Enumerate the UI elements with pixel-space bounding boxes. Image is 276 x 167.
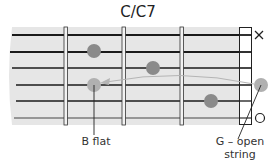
open-o-icon (256, 114, 265, 123)
mute-x-icon (255, 31, 263, 39)
g-open-label-line1: G – open (210, 136, 270, 148)
finger-dot-string3 (146, 61, 160, 75)
finger-dot-string2 (87, 44, 101, 58)
finger-dot-string5 (204, 94, 218, 108)
b-flat-label: B flat (76, 136, 116, 148)
fretboard (9, 27, 252, 125)
nut (240, 28, 252, 125)
g-open-label-line2: string (210, 149, 270, 161)
